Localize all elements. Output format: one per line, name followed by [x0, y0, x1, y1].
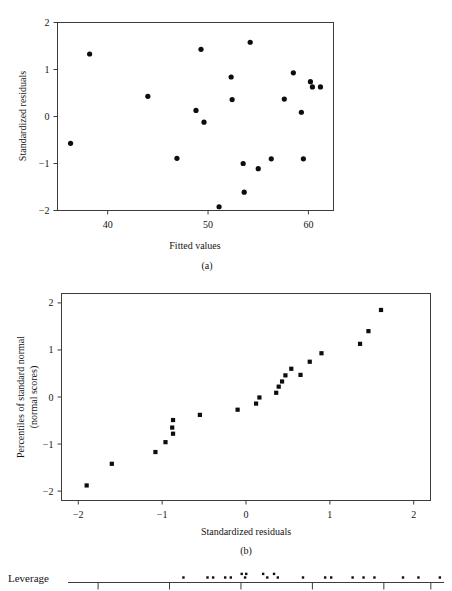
leverage-ticks [98, 583, 431, 590]
data-point [170, 425, 174, 429]
panel-a-x-axis-label: Fitted values [169, 240, 220, 251]
data-point [358, 342, 362, 346]
data-point [254, 401, 258, 405]
panel-b-caption: (b) [240, 545, 252, 557]
panel-a-ytick-labels: −2−1012 [39, 17, 50, 216]
data-point [171, 432, 175, 436]
panel-a-ytick-label: 2 [45, 17, 50, 28]
panel-a: −2−1012 405060 Fitted values Standardize… [17, 17, 334, 272]
panel-b-ytick-labels: −2−1012 [43, 297, 54, 496]
data-point [171, 418, 175, 422]
data-point [274, 391, 278, 395]
data-point [198, 413, 202, 417]
leverage-point [244, 576, 246, 578]
data-point [68, 141, 73, 146]
panel-a-xtick-label: 50 [203, 219, 213, 230]
leverage-label: Leverage [8, 572, 49, 584]
panel-b-y-axis-label-line1: Percentiles of standard normal [15, 336, 26, 458]
panel-b-ytick-label: −1 [43, 439, 54, 450]
data-point [318, 84, 323, 89]
leverage-point [277, 576, 279, 578]
data-point [241, 161, 246, 166]
panel-b-frame [62, 294, 431, 501]
leverage-point [266, 576, 268, 578]
leverage-point [324, 576, 326, 578]
leverage-point [182, 576, 184, 578]
data-point [229, 74, 234, 79]
panel-b-ytick-label: −2 [43, 486, 54, 497]
data-point [319, 351, 323, 355]
panel-a-xtick-labels: 405060 [103, 219, 314, 230]
data-point [216, 204, 221, 209]
leverage-point [417, 576, 419, 578]
data-point [174, 156, 179, 161]
data-point [256, 166, 261, 171]
panel-b-xtick-label: 2 [411, 509, 416, 520]
data-point [110, 462, 114, 466]
data-point [236, 408, 240, 412]
leverage-point [330, 576, 332, 578]
leverage-point [241, 573, 243, 575]
leverage-point [351, 576, 353, 578]
panel-a-ytick-label: 1 [45, 64, 50, 75]
data-point [257, 395, 261, 399]
data-point [153, 450, 157, 454]
panel-a-frame [58, 23, 334, 211]
panel-b-ytick-label: 1 [49, 344, 54, 355]
panel-a-xtick-label: 60 [303, 219, 313, 230]
leverage-point [206, 576, 208, 578]
panel-b-x-axis-label: Standardized residuals [201, 526, 291, 537]
data-point [298, 373, 302, 377]
data-point [145, 94, 150, 99]
data-point [163, 440, 167, 444]
leverage-point [230, 576, 232, 578]
panel-b-xtick-label: −1 [157, 509, 168, 520]
leverage-point [302, 576, 304, 578]
data-point [269, 156, 274, 161]
data-point [248, 40, 253, 45]
data-point [280, 379, 284, 383]
panel-a-ytick-label: −1 [39, 158, 50, 169]
data-point [299, 110, 304, 115]
panel-a-caption: (a) [201, 260, 212, 272]
panel-a-y-ticks [54, 23, 58, 211]
data-point [366, 329, 370, 333]
data-point [308, 360, 312, 364]
leverage-point [262, 573, 264, 575]
data-point [85, 483, 89, 487]
panel-b-xtick-labels: −2−1012 [73, 509, 416, 520]
panel-a-points [68, 40, 323, 210]
leverage-points [182, 573, 441, 579]
panel-a-y-axis-label: Standardized residuals [17, 71, 28, 161]
data-point [379, 308, 383, 312]
panel-a-ytick-label: 0 [45, 111, 50, 122]
panel-b-ytick-label: 2 [49, 297, 54, 308]
figure-canvas: −2−1012 405060 Fitted values Standardize… [0, 0, 452, 591]
panel-a-x-ticks [108, 211, 309, 215]
data-point [301, 156, 306, 161]
data-point [193, 108, 198, 113]
leverage-point [212, 576, 214, 578]
data-point [282, 97, 287, 102]
panel-b-points [85, 308, 384, 488]
panel-a-ytick-label: −2 [39, 205, 50, 216]
data-point [310, 84, 315, 89]
data-point [308, 79, 313, 84]
panel-b-x-ticks [78, 501, 413, 505]
panel-b-y-ticks [58, 303, 62, 491]
leverage-point [245, 573, 247, 575]
panel-b-xtick-label: −2 [73, 509, 84, 520]
panel-b-xtick-label: 1 [327, 509, 332, 520]
leverage-point [273, 573, 275, 575]
data-point [201, 120, 206, 125]
leverage-point [439, 576, 441, 578]
data-point [291, 70, 296, 75]
leverage-point [373, 576, 375, 578]
data-point [283, 373, 287, 377]
panel-b-y-axis-label-line2: (normal scores) [28, 366, 40, 428]
data-point [242, 190, 247, 195]
panel-leverage: Leverage [8, 572, 444, 590]
data-point [289, 367, 293, 371]
data-point [198, 47, 203, 52]
data-point [277, 385, 281, 389]
